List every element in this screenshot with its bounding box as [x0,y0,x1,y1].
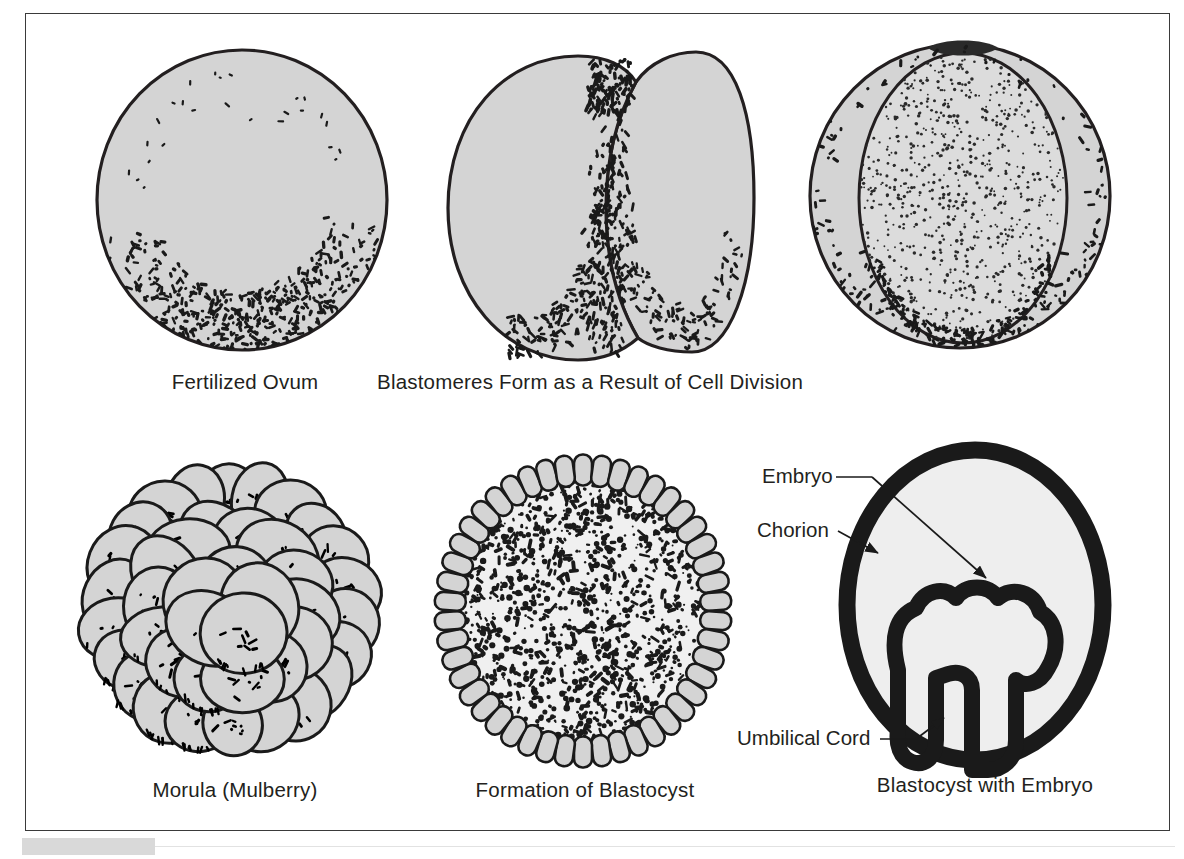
caption-blastocyst: Formation of Blastocyst [420,778,750,802]
fertilized-ovum-illustration [70,30,420,360]
caption-morula: Morula (Mulberry) [65,778,405,802]
trophoblast-cell [700,611,732,631]
trophoblast-cell [434,591,466,611]
caption-blastomeres: Blastomeres Form as a Result of Cell Div… [315,370,865,394]
caption-blastocyst-embryo: Blastocyst with Embryo [820,773,1150,797]
trophoblast-cell [574,737,592,768]
blastocyst-illustration [420,445,750,775]
blastomeres-four-illustration [800,18,1130,363]
trophoblast-cell [590,734,612,767]
morula-illustration [65,445,405,775]
panel-blastomeres-two: Blastomeres Form as a Result of Cell Div… [430,22,750,392]
trophoblast-cell [574,455,592,486]
trophoblast-cell [554,455,576,488]
panel-blastocyst-embryo: Blastocyst with Embryo [820,440,1150,805]
trophoblast-cell [700,591,732,611]
panel-grid: Fertilized Ovum Blastomeres For [0,0,1184,859]
panel-fertilized-ovum: Fertilized Ovum [70,30,420,390]
blastomeres-two-illustration [430,22,750,362]
figure-canvas: Fertilized Ovum Blastomeres For [0,0,1184,859]
panel-blastomeres-four [800,18,1130,368]
panel-blastocyst: Formation of Blastocyst [420,445,750,805]
footer-rule [155,846,1175,847]
footer-bar [22,838,155,855]
blastocyst-embryo-illustration [820,440,1150,775]
callout-umbilical-cord-label: Umbilical Cord [737,726,870,750]
callout-embryo-label: Embryo [762,464,833,488]
panel-morula: Morula (Mulberry) [65,445,405,805]
callout-chorion-label: Chorion [757,518,829,542]
trophoblast-cell [434,611,466,631]
